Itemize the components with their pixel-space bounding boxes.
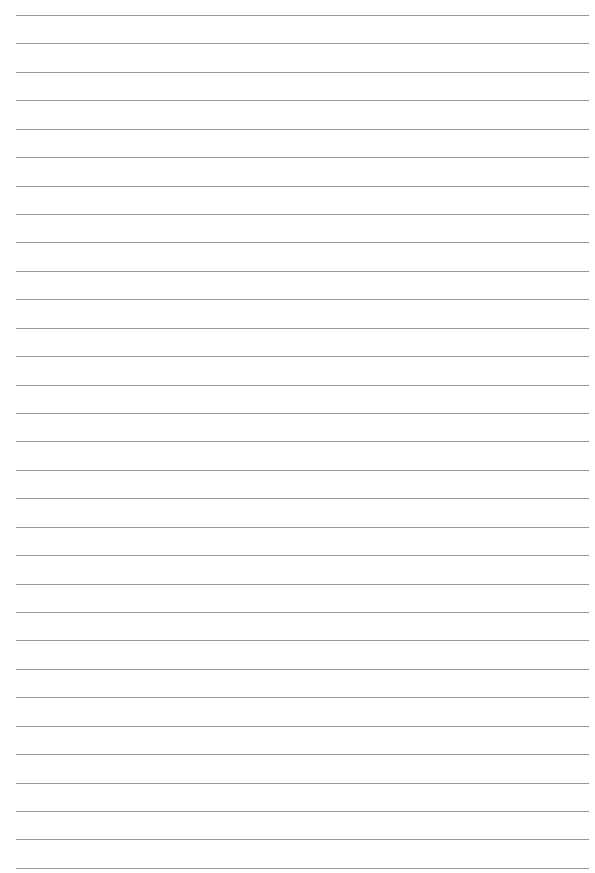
ruled-line [16,15,589,16]
ruled-line [16,754,589,755]
ruled-line [16,470,589,471]
ruled-line [16,328,589,329]
ruled-line [16,413,589,414]
ruled-line [16,186,589,187]
ruled-line [16,385,589,386]
ruled-line [16,129,589,130]
ruled-line [16,498,589,499]
ruled-line [16,356,589,357]
ruled-line [16,839,589,840]
ruled-line [16,612,589,613]
ruled-line [16,669,589,670]
ruled-line [16,271,589,272]
ruled-line [16,697,589,698]
ruled-line [16,441,589,442]
ruled-line [16,726,589,727]
lined-paper-page [0,0,595,873]
ruled-line [16,299,589,300]
ruled-line [16,584,589,585]
ruled-line [16,43,589,44]
ruled-line [16,811,589,812]
ruled-line [16,555,589,556]
ruled-line [16,868,589,869]
ruled-line [16,783,589,784]
ruled-line [16,100,589,101]
ruled-line [16,527,589,528]
ruled-line [16,214,589,215]
ruled-line [16,640,589,641]
ruled-line [16,157,589,158]
ruled-line [16,242,589,243]
ruled-line [16,72,589,73]
